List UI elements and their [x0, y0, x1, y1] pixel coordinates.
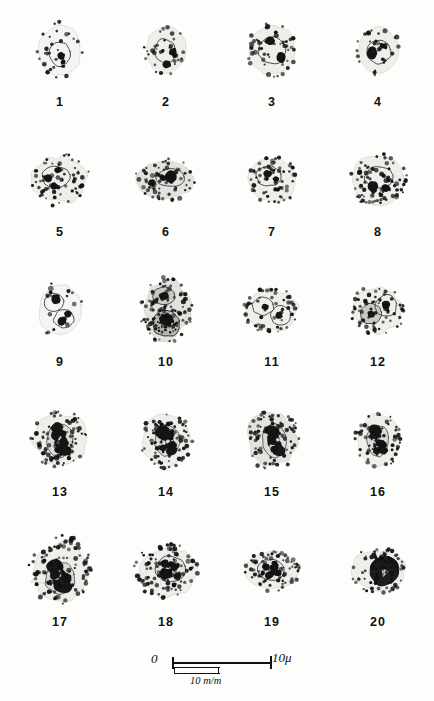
cell-drawing-20: [326, 520, 430, 620]
figure-6: 6: [112, 130, 220, 260]
scale-bar-right-label: 10μ: [272, 650, 292, 666]
cell-drawing-2: [114, 0, 218, 100]
cell-drawing-18: [114, 520, 218, 620]
cell-drawing-5: [8, 130, 112, 230]
figure-7: 7: [218, 130, 326, 260]
scale-bar-sub-top-rule: [174, 667, 220, 668]
figure-10: 10: [112, 260, 220, 390]
figure-row-1: 1234: [0, 0, 434, 130]
figure-row-3: 9101112: [0, 260, 434, 390]
figure-13: 13: [6, 390, 114, 520]
cell-drawing-8: [326, 130, 430, 230]
scale-bar-left-label: 0: [151, 651, 158, 667]
figure-15: 15: [218, 390, 326, 520]
scale-bar-sub-left-tick: [174, 667, 175, 674]
figure-9: 9: [6, 260, 114, 390]
cell-drawing-16: [326, 390, 430, 490]
figure-1: 1: [6, 0, 114, 130]
figure-3: 3: [218, 0, 326, 130]
figure-5: 5: [6, 130, 114, 260]
illustration-plate: 1234 5678 9101112 13141516 17181920 0 10…: [0, 0, 434, 701]
cell-drawing-12: [326, 260, 430, 360]
cell-drawing-13: [8, 390, 112, 490]
figure-18: 18: [112, 520, 220, 650]
figure-row-2: 5678: [0, 130, 434, 260]
figure-19: 19: [218, 520, 326, 650]
cell-drawing-1: [8, 0, 112, 100]
scale-bar-sub-right-tick: [218, 667, 219, 674]
scale-bar-sub-label: 10 m/m: [190, 675, 221, 686]
cell-drawing-15: [220, 390, 324, 490]
figure-12: 12: [324, 260, 432, 390]
scale-bar-main-rule: [172, 662, 272, 664]
cell-drawing-17: [8, 520, 112, 620]
figure-11: 11: [218, 260, 326, 390]
cell-drawing-10: [114, 260, 218, 360]
figure-8: 8: [324, 130, 432, 260]
cell-drawing-3: [220, 0, 324, 100]
figure-17: 17: [6, 520, 114, 650]
cell-drawing-9: [8, 260, 112, 360]
cell-drawing-4: [326, 0, 430, 100]
figure-row-5: 17181920: [0, 520, 434, 650]
figure-row-4: 13141516: [0, 390, 434, 520]
figure-20: 20: [324, 520, 432, 650]
scale-bar: 0 10μ 10 m/m: [0, 640, 434, 701]
figure-14: 14: [112, 390, 220, 520]
figure-16: 16: [324, 390, 432, 520]
cell-drawing-7: [220, 130, 324, 230]
figure-2: 2: [112, 0, 220, 130]
cell-drawing-14: [114, 390, 218, 490]
figure-4: 4: [324, 0, 432, 130]
cell-drawing-11: [220, 260, 324, 360]
cell-drawing-19: [220, 520, 324, 620]
cell-drawing-6: [114, 130, 218, 230]
